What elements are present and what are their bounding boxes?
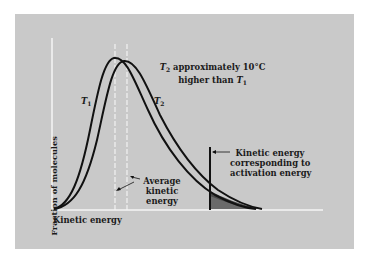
curve-label-t2: T2 [154, 96, 164, 109]
t2-note: T2 approximately 10°C higher than T1 [155, 62, 270, 88]
avg-arrow-2 [118, 182, 134, 190]
y-axis-label: Fraction of molecules [49, 126, 61, 246]
activation-energy-label: Kinetic energy corresponding to activati… [230, 148, 310, 178]
avg-arrow-1-head [130, 176, 134, 179]
avg-arrow-2-head [116, 187, 121, 191]
x-axis-label: Kinetic energy [53, 215, 122, 225]
avg-kinetic-energy-label: Average kinetic energy [138, 176, 186, 206]
activation-pointer-arrowhead [212, 150, 216, 154]
curve-label-t1: T1 [81, 96, 91, 109]
